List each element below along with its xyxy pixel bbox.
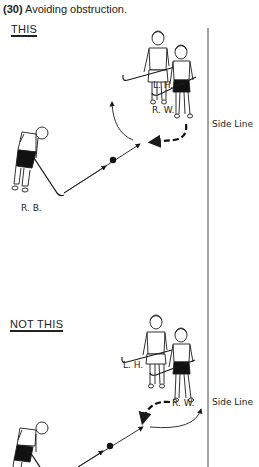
label-left-half: L. H.	[153, 80, 173, 90]
label-right-wing: R. W.	[152, 105, 174, 115]
label-left-half: L. H.	[123, 360, 143, 370]
player-left-half-icon	[123, 31, 175, 104]
panel-not-this	[13, 315, 201, 467]
ball-icon	[107, 443, 113, 449]
label-side-line: Side Line	[212, 397, 253, 407]
curved-pass-arrow	[150, 409, 201, 428]
ball-icon	[110, 157, 116, 163]
label-side-line: Side Line	[212, 119, 253, 129]
dashed-run-arrow	[152, 124, 186, 142]
curved-pass-arrow	[112, 102, 133, 140]
label-right-back: R. B.	[21, 203, 42, 213]
dashed-run-arrow	[143, 402, 170, 421]
label-right-wing: R. W.	[172, 398, 194, 408]
player-right-back-icon	[13, 422, 48, 467]
player-left-half-icon	[122, 315, 172, 388]
player-right-back-icon	[12, 127, 64, 196]
